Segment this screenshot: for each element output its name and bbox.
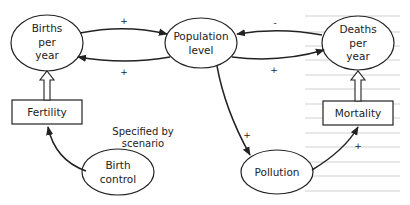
node-mortality: Mortality [323, 101, 393, 125]
arrow-birth-control-to-fertility [48, 127, 86, 171]
node-population-level: Population level [165, 18, 237, 68]
sign-births-to-population: + [120, 16, 128, 26]
node-deaths-per-year: Deaths per year [322, 16, 394, 70]
node-fertility: Fertility [12, 100, 82, 124]
birth-control-label-1: Birth [105, 159, 130, 171]
population-label-2: level [189, 44, 214, 56]
pollution-label: Pollution [255, 166, 300, 178]
node-pollution: Pollution [241, 150, 313, 194]
births-label-1: Births [32, 22, 63, 34]
mortality-label: Mortality [335, 107, 382, 119]
deaths-label-2: per [349, 37, 367, 49]
arrow-population-to-deaths [232, 50, 324, 59]
annotation-line-1: Specified by [112, 126, 173, 137]
node-births-per-year: Births per year [11, 15, 83, 71]
hollow-arrow-fertility-to-births [40, 71, 54, 100]
arrow-births-to-population [80, 29, 167, 34]
sign-pollution-to-mortality: + [354, 141, 362, 151]
birth-control-label-2: control [100, 173, 136, 185]
causal-loop-diagram: Births per year Population level Deaths … [0, 0, 410, 205]
arrow-population-to-pollution [217, 66, 250, 155]
arrow-population-to-births [78, 57, 170, 61]
births-label-2: per [38, 36, 56, 48]
population-label-1: Population [173, 30, 228, 42]
hollow-arrow-mortality-to-deaths [351, 71, 365, 101]
deaths-label-3: year [346, 50, 370, 62]
node-birth-control: Birth control [82, 149, 154, 195]
arrow-pollution-to-mortality [312, 127, 358, 170]
arrow-deaths-to-population [237, 31, 322, 35]
births-label-3: year [35, 49, 59, 61]
sign-population-to-pollution: + [243, 130, 251, 140]
deaths-label-1: Deaths [339, 23, 376, 35]
sign-deaths-to-population: - [273, 18, 276, 28]
annotation-line-2: scenario [122, 138, 164, 149]
fertility-label: Fertility [27, 106, 66, 118]
sign-population-to-deaths: + [270, 65, 278, 75]
sign-population-to-births: + [120, 67, 128, 77]
